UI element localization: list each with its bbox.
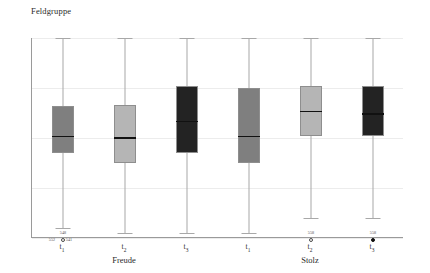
whisker-lower	[187, 153, 188, 233]
median-line	[52, 136, 74, 138]
x-tick-label-stolz-t2: t2	[308, 242, 313, 253]
whisker-cap-lower	[118, 233, 133, 234]
box-freude-t1[interactable]: 548552541	[32, 38, 94, 237]
box-body[interactable]	[114, 105, 136, 164]
box-stolz-t3[interactable]: 558	[342, 38, 404, 237]
x-tick-label-freude-t3: t3	[184, 242, 189, 253]
whisker-upper	[125, 38, 126, 105]
median-line	[238, 136, 260, 138]
outlier-label: 558	[308, 230, 315, 235]
whisker-lower	[373, 136, 374, 219]
outlier-label: 558	[370, 230, 377, 235]
whisker-cap-lower	[242, 233, 257, 234]
whisker-lower	[125, 163, 126, 233]
boxplot-figure: Feldgruppe 548552541558558 54321 t1t2t3t…	[0, 0, 430, 273]
whisker-cap-upper	[366, 38, 381, 39]
outlier-label: 552	[49, 237, 56, 242]
whisker-lower	[63, 153, 64, 228]
outlier-point[interactable]	[61, 238, 65, 242]
whisker-cap-lower	[180, 233, 195, 234]
whisker-cap-upper	[118, 38, 133, 39]
whisker-lower	[311, 136, 312, 219]
whisker-cap-upper	[180, 38, 195, 39]
median-line	[176, 121, 198, 123]
plot-area: 548552541558558	[31, 38, 403, 238]
box-body[interactable]	[238, 88, 260, 163]
median-line	[362, 113, 384, 115]
median-line	[114, 137, 136, 139]
box-stolz-t1[interactable]	[218, 38, 280, 237]
outlier-label: 548	[60, 230, 67, 235]
box-body[interactable]	[362, 86, 384, 136]
whisker-upper	[373, 38, 374, 86]
whisker-cap-upper	[56, 38, 71, 39]
group-label-freude: Freude	[112, 255, 136, 265]
box-stolz-t2[interactable]: 558	[280, 38, 342, 237]
group-label-stolz: Stolz	[301, 255, 318, 265]
whisker-cap-lower	[304, 218, 319, 219]
whisker-upper	[249, 38, 250, 88]
x-tick-label-freude-t1: t1	[60, 242, 65, 253]
page-title: Feldgruppe	[31, 6, 71, 16]
whisker-cap-lower	[366, 218, 381, 219]
x-tick-label-stolz-t1: t1	[246, 242, 251, 253]
outlier-label: 541	[66, 237, 73, 242]
whisker-cap-upper	[242, 38, 257, 39]
box-freude-t2[interactable]	[94, 38, 156, 237]
whisker-upper	[187, 38, 188, 86]
x-tick-label-freude-t2: t2	[122, 242, 127, 253]
outlier-point[interactable]	[371, 238, 375, 242]
gridline-1	[32, 238, 403, 239]
whisker-lower	[249, 163, 250, 233]
whisker-upper	[311, 38, 312, 86]
box-body[interactable]	[52, 106, 74, 154]
box-freude-t3[interactable]	[156, 38, 218, 237]
x-tick-label-stolz-t3: t3	[370, 242, 375, 253]
box-body[interactable]	[176, 86, 198, 154]
median-line	[300, 111, 322, 113]
whisker-cap-upper	[304, 38, 319, 39]
whisker-upper	[63, 38, 64, 106]
outlier-point[interactable]	[309, 238, 313, 242]
